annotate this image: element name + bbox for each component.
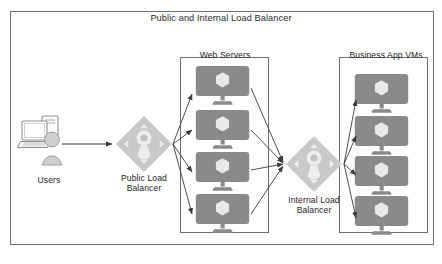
users-label: Users — [16, 176, 82, 186]
users-workstation-icon — [18, 116, 62, 165]
web-server-node — [196, 110, 249, 149]
flow-public-lb-to-web-servers — [173, 94, 192, 214]
diagram-graphics — [0, 0, 442, 264]
business-vms-group-label: Business App VMs — [336, 51, 436, 61]
public-load-balancer-icon — [116, 116, 172, 172]
business-vm-node — [355, 156, 408, 195]
web-servers-group-label: Web Servers — [178, 51, 272, 61]
business-vm-node — [355, 196, 408, 235]
web-server-node — [196, 152, 249, 191]
business-vm-node — [355, 74, 408, 113]
internal-load-balancer-icon — [286, 136, 342, 192]
internal-load-balancer-label: Internal Load Balancer — [270, 196, 358, 215]
diagram-canvas: Public and Internal Load Balancer Web Se… — [0, 0, 442, 264]
public-load-balancer-label: Public Load Balancer — [105, 174, 183, 193]
business-vm-node — [355, 116, 408, 155]
web-server-node — [196, 194, 249, 233]
page-title: Public and Internal Load Balancer — [0, 13, 442, 23]
web-server-node — [196, 66, 249, 105]
